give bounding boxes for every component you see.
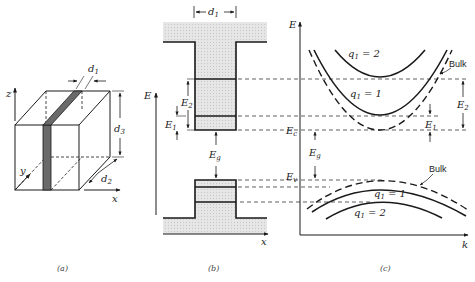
ev-label: Ev (285, 171, 297, 184)
bulk-conduction-label: Bulk (449, 59, 467, 69)
slab-hidden-edge (51, 157, 82, 190)
eg-label: Eg (308, 147, 321, 160)
y-axis-label: y (19, 165, 26, 176)
d1-label: d1 (88, 63, 99, 76)
cb-subband-q1-1-curve (314, 50, 447, 115)
conduction-band-region (163, 22, 267, 130)
d1-label: d1 (208, 6, 219, 19)
d1-tick (76, 76, 84, 89)
vb-q1-1-label: q1 = 1 (374, 188, 406, 201)
x-axis-label: x (112, 193, 118, 204)
z-axis-label: z (5, 88, 12, 99)
panel-b: d1 E E2 E1 Eg x (b) (143, 6, 268, 273)
caption-b: (b) (208, 264, 219, 273)
d2-label: d2 (101, 173, 112, 186)
k-axis-label: k (462, 239, 468, 250)
d2-arrow-up (98, 159, 117, 173)
e2-label: E2 (180, 97, 193, 110)
ec-label: Ec (285, 125, 297, 138)
e-axis-label: E (288, 19, 297, 30)
eg-label: Eg (208, 149, 221, 162)
d3-label: d3 (114, 123, 125, 136)
caption-a: (a) (57, 264, 68, 273)
panel-c: E k q1 = 2 q1 = 1 q1 = 1 q1 = 2 Bulk Bul… (285, 19, 469, 273)
caption-c: (c) (380, 264, 391, 273)
d1-tick (85, 76, 93, 89)
x-axis-label: x (261, 236, 267, 247)
cb-q1-1-label: q1 = 1 (350, 88, 382, 101)
slab-front (43, 125, 51, 190)
bulk-valence-label: Bulk (429, 164, 447, 174)
vb-q1-2-label: q1 = 2 (354, 207, 386, 220)
bulk-valence-leader (420, 174, 433, 185)
valence-band-region (163, 180, 267, 234)
y-axis-arrow (15, 174, 30, 190)
e-axis-label: E (143, 90, 152, 101)
e2-label: E2 (456, 99, 469, 112)
e1-label: E1 (164, 119, 177, 132)
panel-a: z y x d1 d3 d (5, 63, 125, 273)
cb-q1-2-label: q1 = 2 (348, 48, 380, 61)
figure-canvas: z y x d1 d3 d (0, 0, 475, 282)
slab-top (43, 91, 82, 125)
